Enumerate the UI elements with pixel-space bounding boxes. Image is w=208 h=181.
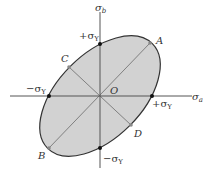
origin-label: O: [110, 85, 118, 96]
point-b-marker: [47, 146, 51, 150]
horizontal-axis-label: σa: [192, 91, 203, 104]
point-d-marker: [129, 123, 133, 127]
vertical-axis-label: σb: [95, 2, 107, 15]
diagram-canvas: σb σa O +σY −σY −σY +σY A B C D: [0, 0, 208, 181]
point-c-label: C: [61, 53, 69, 64]
point-b-label: B: [37, 150, 45, 161]
point-a-marker: [148, 41, 152, 45]
intercept-left-label: −σY: [26, 83, 46, 96]
point-c-marker: [67, 65, 71, 69]
yield-ellipse-diagram: σb σa O +σY −σY −σY +σY A B C D: [0, 0, 208, 181]
intercept-left-point: [47, 94, 51, 98]
intercept-bottom-label: −σY: [103, 153, 123, 166]
intercept-top-label: +σY: [79, 30, 99, 43]
intercept-bottom-point: [98, 146, 102, 150]
point-a-label: A: [155, 35, 163, 46]
point-d-label: D: [133, 128, 142, 139]
intercept-right-label: +σY: [152, 98, 172, 111]
